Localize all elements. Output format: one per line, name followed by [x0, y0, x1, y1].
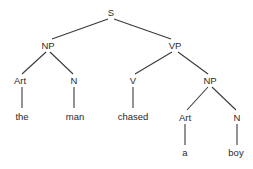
node-n2: N	[234, 112, 241, 123]
edge-vp-np2	[178, 52, 208, 74]
node-vp: VP	[169, 40, 182, 51]
edge-s-vp	[114, 19, 171, 39]
edge-s-np1	[52, 19, 108, 39]
node-n1: N	[71, 75, 78, 86]
node-boy: boy	[228, 147, 244, 158]
tree-nodes: SNPVPArtNVNPthemanchasedArtNaboy	[14, 7, 244, 158]
node-the: the	[15, 111, 28, 122]
node-art1: Art	[14, 75, 27, 86]
edge-vp-v	[135, 52, 172, 74]
edge-np2-n2	[212, 87, 236, 110]
node-v: V	[130, 75, 137, 86]
node-np2: NP	[203, 75, 216, 86]
node-art2: Art	[179, 112, 192, 123]
node-chased: chased	[118, 111, 149, 122]
syntax-tree-diagram: SNPVPArtNVNPthemanchasedArtNaboy	[0, 0, 253, 169]
edge-np2-art2	[187, 87, 208, 110]
node-a: a	[182, 147, 188, 158]
node-np1: NP	[41, 40, 54, 51]
edge-np1-art1	[22, 52, 46, 74]
node-s: S	[108, 7, 114, 18]
node-man: man	[66, 111, 84, 122]
edge-np1-n1	[50, 52, 73, 74]
